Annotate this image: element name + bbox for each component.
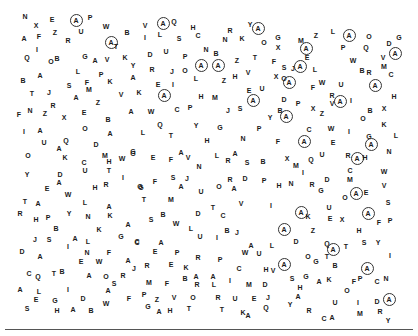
letter: Z bbox=[314, 32, 318, 39]
letter: N bbox=[386, 148, 391, 155]
letter: O bbox=[190, 294, 195, 301]
letter: Z bbox=[320, 110, 324, 117]
letter: D bbox=[386, 40, 391, 47]
letter: Y bbox=[67, 210, 72, 217]
letter: E bbox=[151, 154, 156, 161]
letter: Q bbox=[35, 273, 40, 280]
letter: O bbox=[216, 183, 221, 190]
letter: L bbox=[215, 152, 219, 159]
letter: D bbox=[147, 51, 152, 58]
letter: M bbox=[381, 63, 387, 70]
letter: E bbox=[34, 296, 39, 303]
letter: Z bbox=[311, 227, 315, 234]
letter: P bbox=[358, 275, 363, 282]
letter: C bbox=[347, 167, 352, 174]
circled-letter: A bbox=[286, 79, 291, 86]
letter: N bbox=[85, 213, 90, 220]
letter: P bbox=[88, 14, 93, 21]
letter: V bbox=[186, 154, 191, 161]
letter: R bbox=[103, 181, 108, 188]
letter: C bbox=[134, 239, 139, 246]
letter: U bbox=[332, 299, 337, 306]
letter: E bbox=[156, 81, 161, 88]
letter: R bbox=[377, 308, 382, 315]
letter: B bbox=[359, 67, 364, 74]
letter: F bbox=[17, 111, 21, 118]
circled-letter: A bbox=[353, 190, 358, 197]
letter: R bbox=[366, 69, 371, 76]
letter: A bbox=[210, 273, 215, 280]
bottom-rule-divider bbox=[5, 329, 413, 330]
letter: Q bbox=[363, 44, 368, 51]
letter: O bbox=[342, 194, 347, 201]
letter: O bbox=[103, 273, 108, 280]
letter: J bbox=[47, 89, 51, 96]
letter: J bbox=[226, 107, 230, 114]
cancellation-test-sheet: NEAPXWBZUAFRATVAQHILSCRYANKOIQOBGAVKYDUP… bbox=[0, 0, 418, 336]
letter: H bbox=[54, 307, 59, 314]
letter: E bbox=[331, 139, 336, 146]
letter: L bbox=[270, 242, 274, 249]
letter: K bbox=[107, 78, 112, 85]
letter: A bbox=[156, 308, 161, 315]
letter: T bbox=[325, 253, 329, 260]
letter: W bbox=[103, 23, 110, 30]
letter: W bbox=[148, 108, 155, 115]
letter: A bbox=[193, 273, 198, 280]
letter: E bbox=[153, 248, 158, 255]
letter: Z bbox=[235, 57, 239, 64]
letter: E bbox=[45, 185, 50, 192]
letter: R bbox=[149, 66, 154, 73]
letter: Y bbox=[376, 239, 381, 246]
letter: G bbox=[396, 34, 401, 41]
letter: U bbox=[326, 204, 331, 211]
letter: N bbox=[203, 46, 208, 53]
letter: A bbox=[107, 130, 112, 137]
letter: W bbox=[65, 191, 72, 198]
letter: J bbox=[33, 236, 37, 243]
letter: K bbox=[96, 226, 101, 233]
letter: X bbox=[340, 216, 345, 223]
letter: L bbox=[83, 199, 87, 206]
letter: Q bbox=[63, 137, 68, 144]
letter: R bbox=[194, 281, 199, 288]
letter: D bbox=[80, 295, 85, 302]
letter: S bbox=[149, 216, 154, 223]
letter: M bbox=[347, 176, 353, 183]
letter: G bbox=[145, 303, 150, 310]
letter: L bbox=[158, 31, 162, 38]
letter: B bbox=[59, 268, 64, 275]
letter: S bbox=[362, 239, 367, 246]
letter: K bbox=[62, 154, 67, 161]
letter: P bbox=[188, 104, 193, 111]
letter: Y bbox=[131, 62, 136, 69]
letter: Z bbox=[96, 99, 100, 106]
letter: T bbox=[30, 90, 34, 97]
letter: F bbox=[169, 156, 173, 163]
letter: B bbox=[332, 262, 337, 269]
letter: G bbox=[118, 233, 123, 240]
letter: B bbox=[88, 307, 93, 314]
circled-letter: A bbox=[365, 210, 370, 217]
letter: H bbox=[362, 154, 367, 161]
letter: Z bbox=[222, 77, 226, 84]
letter: I bbox=[302, 169, 304, 176]
letter: C bbox=[195, 32, 200, 39]
letter: U bbox=[78, 28, 83, 35]
circled-letter: A bbox=[73, 17, 78, 24]
letter: G bbox=[303, 273, 308, 280]
letter: W bbox=[350, 57, 357, 64]
letter: K bbox=[122, 54, 127, 61]
letter: G bbox=[217, 124, 222, 131]
letter: I bbox=[67, 243, 69, 250]
circled-letter: A bbox=[297, 63, 302, 70]
letter: D bbox=[195, 210, 200, 217]
letter: A bbox=[178, 183, 183, 190]
letter: G bbox=[313, 258, 318, 265]
circled-letter: A bbox=[298, 209, 303, 216]
letter: T bbox=[220, 306, 224, 313]
letter: P bbox=[218, 256, 223, 263]
letter: A bbox=[92, 57, 97, 64]
letter: M bbox=[246, 281, 252, 288]
letter: L bbox=[86, 238, 90, 245]
